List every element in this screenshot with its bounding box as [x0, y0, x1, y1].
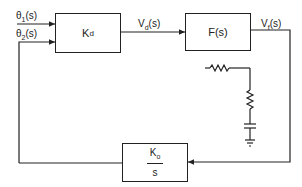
- vco-transfer-function: Ko s: [147, 147, 163, 178]
- filter-circuit: [205, 65, 256, 146]
- input-theta1-label: θ1(s): [16, 11, 37, 25]
- loop-filter-block: F(s): [185, 13, 251, 51]
- vf-label: Vf(s): [261, 19, 281, 33]
- phase-detector-block: Kd: [55, 13, 121, 53]
- vco-block: Ko s: [122, 143, 188, 182]
- input-theta2-label: θ2(s): [16, 29, 37, 43]
- vd-label: Vd(s): [138, 19, 160, 33]
- feedback-theta2-arrow: [19, 42, 55, 163]
